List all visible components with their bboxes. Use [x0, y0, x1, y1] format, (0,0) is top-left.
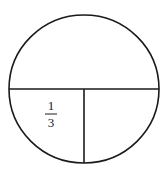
fraction-circle-diagram: 1 3 [0, 0, 167, 171]
fraction-denominator: 3 [48, 115, 55, 130]
fraction-numerator: 1 [48, 98, 55, 113]
fraction-label: 1 3 [45, 98, 57, 130]
